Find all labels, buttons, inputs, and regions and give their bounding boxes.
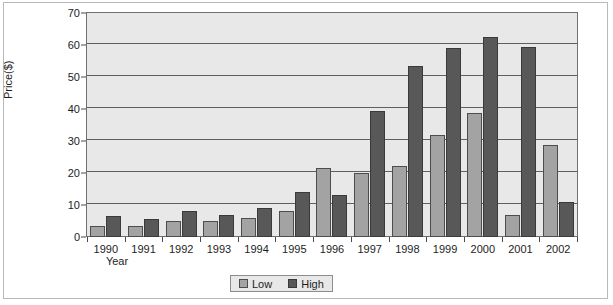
x-axis-tick-mark [275, 237, 276, 242]
x-axis-tick-mark [200, 237, 201, 242]
bar-low-1995[interactable] [279, 211, 294, 237]
bar-low-1993[interactable] [203, 221, 218, 237]
bar-low-2001[interactable] [505, 215, 520, 237]
bar-group [238, 13, 276, 237]
bar-low-1996[interactable] [316, 168, 331, 237]
x-axis-tick-label: 2002 [546, 243, 570, 255]
bar-group [200, 13, 238, 237]
chart-legend: LowHigh [230, 275, 333, 292]
x-axis-tick-label: 1994 [244, 243, 268, 255]
bar-group [426, 13, 464, 237]
bar-low-1992[interactable] [166, 221, 181, 237]
y-axis-tick-mark [81, 109, 86, 110]
y-axis-tick-mark [81, 13, 86, 14]
bar-low-1998[interactable] [392, 166, 407, 237]
legend-label: High [301, 278, 324, 290]
x-axis-tick-mark [577, 237, 578, 242]
x-axis-tick-mark [87, 237, 88, 242]
x-axis-tick-mark [426, 237, 427, 242]
x-axis-tick-label: 1993 [207, 243, 231, 255]
y-axis-tick-label: 70 [68, 7, 80, 19]
y-axis-tick-label: 50 [68, 71, 80, 83]
bar-high-2001[interactable] [521, 47, 536, 237]
y-axis-tick-label: 10 [68, 199, 80, 211]
bar-group [502, 13, 540, 237]
y-axis-tick-mark [81, 45, 86, 46]
bar-low-1991[interactable] [128, 226, 143, 237]
y-axis-tick-label: 60 [68, 39, 80, 51]
x-axis-tick-mark [313, 237, 314, 242]
y-axis-tick-label: 40 [68, 103, 80, 115]
legend-item-high[interactable]: High [288, 278, 324, 290]
y-axis-tick-mark [81, 237, 86, 238]
bar-low-1999[interactable] [430, 135, 445, 237]
x-axis-tick-mark [389, 237, 390, 242]
x-axis-tick-label: 1991 [131, 243, 155, 255]
bar-high-1993[interactable] [219, 215, 234, 237]
x-axis-tick-mark [539, 237, 540, 242]
y-axis-tick-label: 20 [68, 167, 80, 179]
bar-group [313, 13, 351, 237]
y-axis-tick-mark [81, 173, 86, 174]
x-axis-tick-label: 1992 [169, 243, 193, 255]
bar-high-1999[interactable] [446, 48, 461, 237]
bar-high-1996[interactable] [332, 195, 347, 237]
x-axis-tick-label: 1999 [433, 243, 457, 255]
bar-group [389, 13, 427, 237]
y-axis-title: Price($) [2, 60, 14, 99]
bar-high-1998[interactable] [408, 66, 423, 237]
x-axis-tick-mark [162, 237, 163, 242]
x-axis-tick-mark [238, 237, 239, 242]
x-axis-tick-label: 2000 [471, 243, 495, 255]
bar-high-1995[interactable] [295, 192, 310, 237]
legend-item-low[interactable]: Low [239, 278, 272, 290]
bar-group [351, 13, 389, 237]
x-axis-tick-label: 1997 [357, 243, 381, 255]
x-axis: 1990199119921993199419951996199719981999… [87, 237, 577, 263]
legend-label: Low [252, 278, 272, 290]
bar-high-1990[interactable] [106, 216, 121, 237]
x-axis-tick-label: 1998 [395, 243, 419, 255]
y-axis-tick-mark [81, 205, 86, 206]
x-axis-tick-label: 1990 [94, 243, 118, 255]
bar-high-2000[interactable] [483, 37, 498, 237]
x-axis-tick-label: 2001 [508, 243, 532, 255]
chart-frame: 010203040506070 Price($) 199019911992199… [3, 2, 608, 299]
legend-swatch-icon [288, 279, 297, 288]
bar-low-2002[interactable] [543, 145, 558, 237]
bar-high-1992[interactable] [182, 211, 197, 237]
bar-group [539, 13, 577, 237]
bar-low-1990[interactable] [90, 226, 105, 237]
bar-group [464, 13, 502, 237]
y-axis: 010203040506070 [48, 12, 86, 239]
bar-high-1997[interactable] [370, 111, 385, 237]
bar-series-container [87, 13, 577, 237]
y-axis-tick-label: 30 [68, 135, 80, 147]
bar-low-2000[interactable] [467, 113, 482, 237]
x-axis-title: Year [87, 255, 147, 267]
bar-low-1997[interactable] [354, 173, 369, 237]
x-axis-tick-label: 1996 [320, 243, 344, 255]
x-axis-tick-mark [502, 237, 503, 242]
bar-high-1994[interactable] [257, 208, 272, 237]
x-axis-tick-mark [125, 237, 126, 242]
y-axis-tick-mark [81, 77, 86, 78]
x-axis-tick-label: 1995 [282, 243, 306, 255]
y-axis-tick-mark [81, 141, 86, 142]
y-axis-tick-label: 0 [74, 231, 80, 243]
legend-swatch-icon [239, 279, 248, 288]
x-axis-tick-mark [464, 237, 465, 242]
bar-high-1991[interactable] [144, 219, 159, 237]
bar-high-2002[interactable] [559, 202, 574, 237]
bar-chart: 010203040506070 Price($) 199019911992199… [4, 3, 609, 300]
bar-group [87, 13, 125, 237]
x-axis-tick-mark [351, 237, 352, 242]
bar-low-1994[interactable] [241, 218, 256, 237]
bar-group [125, 13, 163, 237]
bar-group [275, 13, 313, 237]
bar-group [162, 13, 200, 237]
